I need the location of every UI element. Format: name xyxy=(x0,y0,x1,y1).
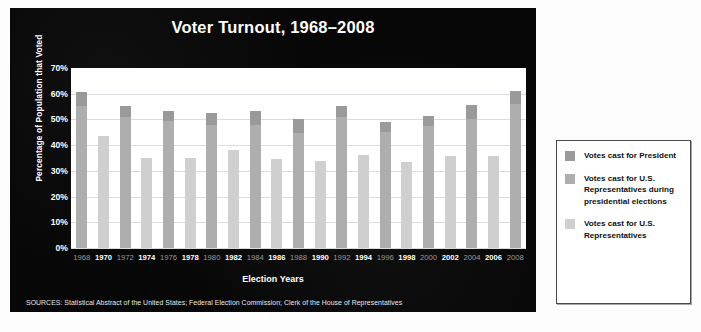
segment-house-midterm-2006 xyxy=(488,156,499,248)
plot-area xyxy=(71,68,526,248)
segment-house-midterm-1998 xyxy=(401,162,412,248)
bar-1978[interactable] xyxy=(185,158,196,248)
bar-1984[interactable] xyxy=(250,111,261,248)
segment-president-1984 xyxy=(250,111,261,125)
bar-2000[interactable] xyxy=(423,116,434,248)
segment-house-midterm-1970 xyxy=(98,136,109,248)
bar-slot-1982 xyxy=(223,68,245,248)
bar-1980[interactable] xyxy=(206,113,217,248)
x-tick-1970: 1970 xyxy=(93,251,115,264)
x-tick-1976: 1976 xyxy=(158,251,180,264)
segment-president-1976 xyxy=(163,111,174,121)
legend-swatch-icon-3 xyxy=(565,219,575,229)
legend-label-3: Votes cast for U.S. Representatives xyxy=(584,218,684,241)
y-axis-tick-labels: 70%60%50%40%30%20%10%0% xyxy=(32,61,68,251)
bar-slot-1978 xyxy=(179,68,201,248)
x-tick-2002: 2002 xyxy=(439,251,461,264)
bar-slot-1986 xyxy=(266,68,288,248)
y-tick-20%: 20% xyxy=(51,192,68,202)
x-tick-1982: 1982 xyxy=(223,251,245,264)
segment-house-presidential-1968 xyxy=(76,106,87,248)
segment-house-presidential-1976 xyxy=(163,121,174,248)
bar-1992[interactable] xyxy=(336,106,347,248)
bar-slot-1988 xyxy=(288,68,310,248)
x-tick-2008: 2008 xyxy=(504,251,526,264)
bar-1976[interactable] xyxy=(163,111,174,248)
legend-item-1[interactable]: Votes cast for President xyxy=(563,150,684,162)
y-tick-10%: 10% xyxy=(51,217,68,227)
y-tick-60%: 60% xyxy=(51,89,68,99)
bar-1982[interactable] xyxy=(228,150,239,248)
bar-1998[interactable] xyxy=(401,162,412,248)
segment-house-presidential-1972 xyxy=(120,117,131,248)
segment-president-1980 xyxy=(206,113,217,125)
segment-house-midterm-1974 xyxy=(141,158,152,249)
segment-house-midterm-2002 xyxy=(445,156,456,248)
segment-house-presidential-1996 xyxy=(380,132,391,248)
legend-swatch-icon-2 xyxy=(565,174,575,184)
bar-slot-1994 xyxy=(353,68,375,248)
bar-1988[interactable] xyxy=(293,119,304,248)
legend-label-2: Votes cast for U.S. Representatives duri… xyxy=(584,173,684,208)
y-tick-50%: 50% xyxy=(51,114,68,124)
bar-slot-1970 xyxy=(93,68,115,248)
bar-2004[interactable] xyxy=(466,105,477,248)
bar-1994[interactable] xyxy=(358,155,369,248)
bar-slot-1996 xyxy=(374,68,396,248)
legend-item-3[interactable]: Votes cast for U.S. Representatives xyxy=(563,218,684,241)
y-tick-40%: 40% xyxy=(51,140,68,150)
x-tick-1988: 1988 xyxy=(288,251,310,264)
x-tick-1990: 1990 xyxy=(309,251,331,264)
bar-slot-1980 xyxy=(201,68,223,248)
bar-1972[interactable] xyxy=(120,106,131,248)
gridline xyxy=(71,248,526,249)
bar-slot-2008 xyxy=(504,68,526,248)
bar-slot-1990 xyxy=(309,68,331,248)
legend-label-1: Votes cast for President xyxy=(584,150,676,162)
segment-house-presidential-2004 xyxy=(466,119,477,248)
segment-house-presidential-1988 xyxy=(293,133,304,248)
bar-slot-1968 xyxy=(71,68,93,248)
x-tick-2004: 2004 xyxy=(461,251,483,264)
y-tick-70%: 70% xyxy=(51,63,68,73)
y-tick-0%: 0% xyxy=(56,243,68,253)
segment-president-2008 xyxy=(510,91,521,104)
legend-item-2[interactable]: Votes cast for U.S. Representatives duri… xyxy=(563,173,684,208)
bar-slot-2004 xyxy=(461,68,483,248)
x-tick-1974: 1974 xyxy=(136,251,158,264)
segment-house-midterm-1982 xyxy=(228,150,239,248)
segment-president-2004 xyxy=(466,105,477,119)
segment-president-2000 xyxy=(423,116,434,126)
legend-items: Votes cast for PresidentVotes cast for U… xyxy=(563,150,684,299)
bar-slot-2000 xyxy=(418,68,440,248)
x-tick-1992: 1992 xyxy=(331,251,353,264)
bar-1974[interactable] xyxy=(141,158,152,249)
chart-panel: Voter Turnout, 1968–2008 Percentage of P… xyxy=(10,8,536,312)
segment-house-presidential-1984 xyxy=(250,125,261,248)
bar-1996[interactable] xyxy=(380,122,391,248)
bar-slot-1998 xyxy=(396,68,418,248)
bar-1970[interactable] xyxy=(98,136,109,248)
segment-house-midterm-1994 xyxy=(358,155,369,248)
segment-president-1972 xyxy=(120,106,131,117)
chart-legend: Votes cast for PresidentVotes cast for U… xyxy=(556,140,691,304)
segment-house-midterm-1986 xyxy=(271,159,282,248)
segment-house-midterm-1990 xyxy=(315,161,326,248)
bar-2008[interactable] xyxy=(510,91,521,248)
bar-2002[interactable] xyxy=(445,156,456,248)
bar-1990[interactable] xyxy=(315,161,326,248)
legend-swatch-icon-1 xyxy=(565,151,575,161)
bar-1986[interactable] xyxy=(271,159,282,248)
bar-1968[interactable] xyxy=(76,92,87,248)
x-tick-1984: 1984 xyxy=(244,251,266,264)
x-tick-2000: 2000 xyxy=(418,251,440,264)
bar-slot-2002 xyxy=(439,68,461,248)
x-tick-1996: 1996 xyxy=(374,251,396,264)
sources-note: SOURCES: Statistical Abstract of the Uni… xyxy=(26,299,526,306)
x-tick-1998: 1998 xyxy=(396,251,418,264)
bar-series xyxy=(71,68,526,248)
bar-2006[interactable] xyxy=(488,156,499,248)
bar-slot-1972 xyxy=(114,68,136,248)
x-tick-1994: 1994 xyxy=(353,251,375,264)
segment-house-presidential-1992 xyxy=(336,117,347,248)
